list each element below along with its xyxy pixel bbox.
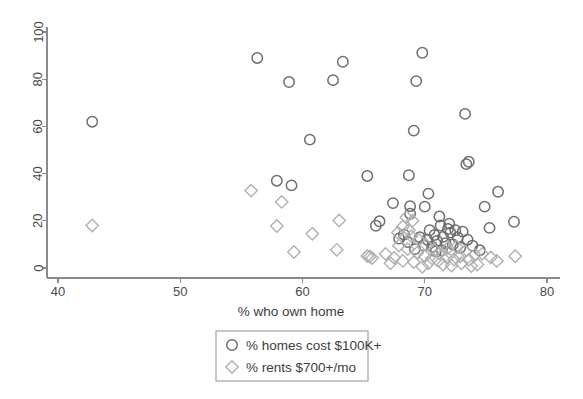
data-point-circle xyxy=(338,57,348,67)
data-point-circle xyxy=(286,180,296,190)
data-point-circle xyxy=(493,187,503,197)
data-point-circle xyxy=(409,125,419,135)
data-point-circle xyxy=(252,53,262,63)
x-tick-label: 80 xyxy=(540,284,554,299)
data-point-circle xyxy=(284,77,294,87)
data-point-circle xyxy=(417,48,427,58)
legend-label: % homes cost $100K+ xyxy=(246,338,382,353)
data-point-diamond xyxy=(306,228,318,240)
y-tick-label: 0 xyxy=(31,264,46,271)
plot-area: 0204060801004050607080 % who own home % … xyxy=(0,0,583,399)
x-tick-label: 40 xyxy=(51,284,65,299)
data-point-circle xyxy=(509,217,519,227)
y-tick-label: 80 xyxy=(31,72,46,86)
data-point-circle xyxy=(423,188,433,198)
x-axis-title: % who own home xyxy=(238,304,345,319)
data-point-circle xyxy=(87,116,97,126)
x-tick-label: 50 xyxy=(173,284,187,299)
data-point-circle xyxy=(272,175,282,185)
data-point-circle xyxy=(328,75,338,85)
data-point-circle xyxy=(404,170,414,180)
scatter-chart: 0204060801004050607080 % who own home % … xyxy=(0,0,583,399)
data-point-circle xyxy=(411,76,421,86)
data-point-diamond xyxy=(86,219,98,231)
x-tick-label: 60 xyxy=(295,284,309,299)
data-point-diamond xyxy=(509,250,521,262)
data-point-diamond xyxy=(245,184,257,196)
x-axis-title-group: % who own home xyxy=(238,304,345,319)
y-tick-label: 60 xyxy=(31,119,46,133)
data-point-diamond xyxy=(331,244,343,256)
y-tick-label: 20 xyxy=(31,214,46,228)
legend-label: % rents $700+/mo xyxy=(246,360,356,375)
data-point-circle xyxy=(479,201,489,211)
data-point-circle xyxy=(388,198,398,208)
data-point-circle xyxy=(420,201,430,211)
series-rents xyxy=(86,184,521,273)
data-point-circle xyxy=(305,134,315,144)
data-point-circle xyxy=(464,157,474,167)
data-point-circle xyxy=(461,159,471,169)
data-point-diamond xyxy=(271,220,283,232)
series-homes xyxy=(87,48,519,257)
data-point-diamond xyxy=(333,214,345,226)
y-tick-label: 40 xyxy=(31,166,46,180)
legend: % homes cost $100K+% rents $700+/mo xyxy=(216,331,382,381)
data-point-diamond xyxy=(288,246,300,258)
data-point-circle xyxy=(484,223,494,233)
data-point-diamond xyxy=(276,196,288,208)
y-tick-label: 100 xyxy=(31,21,46,43)
data-point-circle xyxy=(362,171,372,181)
data-points xyxy=(86,48,521,273)
x-tick-label: 70 xyxy=(418,284,432,299)
data-point-circle xyxy=(460,109,470,119)
